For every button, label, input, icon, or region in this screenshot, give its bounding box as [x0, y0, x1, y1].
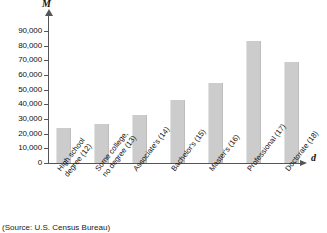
- y-axis-tick-label: 70,000: [0, 56, 42, 64]
- bar: [246, 41, 261, 163]
- x-axis-category-labels: High schooldegree (12)Some college,no de…: [0, 164, 327, 219]
- y-axis-label: M: [42, 0, 51, 9]
- y-axis-tick-label: 30,000: [0, 115, 42, 123]
- y-axis-tick-label: 50,000: [0, 86, 42, 94]
- source-caption: (Source: U.S. Census Bureau): [2, 223, 110, 232]
- x-axis-label: d: [311, 152, 316, 163]
- y-axis-tick-label: 80,000: [0, 42, 42, 50]
- y-axis-tick-label: 90,000: [0, 27, 42, 35]
- y-axis-tick-label: 20,000: [0, 130, 42, 138]
- y-axis-tick-label: 60,000: [0, 71, 42, 79]
- bar: [284, 62, 299, 163]
- y-axis-tick-label: 40,000: [0, 100, 42, 108]
- bar-chart-figure: M d 010,00020,00030,00040,00050,00060,00…: [0, 0, 327, 233]
- y-axis-tick-label: 10,000: [0, 144, 42, 152]
